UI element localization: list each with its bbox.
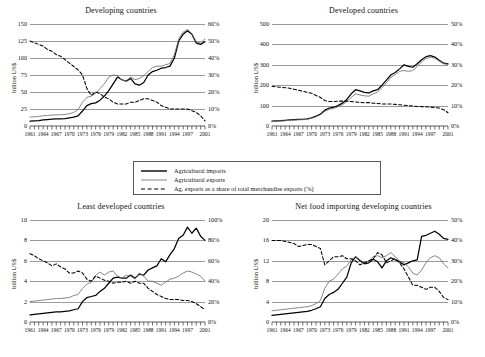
legend: Agricultural imports Agricultural export… [133, 161, 381, 195]
y-axis-label: billion US$ [252, 63, 259, 93]
panel-least-developed-countries: Least developed countries 02468100%20%40… [0, 196, 242, 357]
y-axis-tick-label: 12 [263, 257, 272, 264]
x-axis-tick-label: 1997 [180, 327, 196, 333]
y2-axis-tick-label: 100% [205, 216, 222, 223]
plot-area: 01002003004005000%10%20%30%40%50%1961196… [272, 24, 448, 126]
y2-axis-tick-label: 10% [448, 102, 462, 109]
panel-net-food-importing-countries: Net food importing developing countries … [242, 196, 485, 357]
series-canvas [272, 220, 448, 329]
series-canvas [30, 220, 205, 329]
y2-axis-tick-label: 30% [205, 71, 219, 78]
y2-axis-tick-label: 0% [205, 318, 216, 325]
legend-key-solid-thick-icon [140, 167, 168, 175]
y2-axis-tick-label: 10% [448, 298, 462, 305]
legend-item: Ag. exports as a share of total merchand… [140, 184, 374, 193]
y2-axis-tick-label: 60% [205, 257, 219, 264]
y2-axis-tick-label: 40% [205, 277, 219, 284]
y2-axis-tick-label: 0% [448, 122, 459, 129]
series-line [272, 57, 448, 121]
series-line [272, 56, 448, 121]
x-axis-tick-label: 1997 [422, 327, 438, 333]
series-line [30, 254, 205, 310]
y2-axis-tick-label: 80% [205, 236, 219, 243]
y-axis-tick-label: 125 [18, 37, 30, 44]
y2-axis-tick-label: 20% [448, 81, 462, 88]
y-axis-label: billion US$ [10, 259, 17, 289]
series-line [30, 41, 205, 121]
x-axis-tick-label: 1997 [180, 131, 196, 137]
plot-area: 02550751001251500%10%20%30%40%50%60%1961… [30, 24, 205, 126]
plot-area: 02468100%20%40%60%80%100%196119641967197… [30, 220, 205, 322]
y2-axis-tick-label: 40% [448, 40, 462, 47]
y2-axis-tick-label: 20% [205, 298, 219, 305]
series-canvas [30, 24, 205, 133]
y2-axis-tick-label: 50% [205, 37, 219, 44]
y2-axis-tick-label: 50% [448, 20, 462, 27]
x-axis-tick-label: 2001 [197, 327, 213, 333]
legend-item: Agricultural imports [140, 166, 374, 175]
x-axis-tick-label: 1997 [422, 131, 438, 137]
legend-label: Agricultural exports [174, 176, 225, 183]
legend-label: Ag. exports as a share of total merchand… [174, 185, 314, 192]
y2-axis-tick-label: 20% [448, 277, 462, 284]
y2-axis-tick-label: 0% [205, 122, 216, 129]
y-axis-tick-label: 10 [21, 216, 30, 223]
legend-label: Agricultural imports [174, 167, 226, 174]
legend-key-dashed-icon [140, 185, 168, 193]
y-axis-tick-label: 500 [260, 20, 272, 27]
y2-axis-tick-label: 30% [448, 257, 462, 264]
x-axis-tick-label: 2001 [440, 131, 456, 137]
panel-title: Net food importing developing countries [242, 202, 485, 211]
panel-title: Developed countries [242, 6, 485, 15]
y2-axis-tick-label: 20% [205, 88, 219, 95]
y-axis-tick-label: 20 [263, 216, 272, 223]
figure-root: Developing countries 02550751001251500%1… [0, 0, 485, 357]
y-axis-tick-label: 16 [263, 236, 272, 243]
y-axis-label: billion US$ [10, 63, 17, 93]
series-line [30, 227, 205, 315]
y2-axis-tick-label: 30% [448, 61, 462, 68]
legend-key-solid-thin-icon [140, 176, 168, 184]
y2-axis-tick-label: 60% [205, 20, 219, 27]
y-axis-tick-label: 150 [18, 20, 30, 27]
y2-axis-tick-label: 0% [448, 318, 459, 325]
x-axis-tick-label: 2001 [440, 327, 456, 333]
panel-title: Developing countries [0, 6, 242, 15]
y-axis-tick-label: 200 [260, 81, 272, 88]
panel-developed-countries: Developed countries 01002003004005000%10… [242, 0, 485, 160]
y2-axis-tick-label: 40% [205, 54, 219, 61]
y-axis-tick-label: 400 [260, 40, 272, 47]
panel-title: Least developed countries [0, 202, 242, 211]
y-axis-tick-label: 300 [260, 61, 272, 68]
plot-area: 0481216200%10%20%30%40%50%19611964196719… [272, 220, 448, 322]
y2-axis-tick-label: 50% [448, 216, 462, 223]
y2-axis-tick-label: 10% [205, 105, 219, 112]
series-line [272, 231, 448, 315]
y-axis-tick-label: 100 [18, 54, 30, 61]
legend-item: Agricultural exports [140, 175, 374, 184]
panel-developing-countries: Developing countries 02550751001251500%1… [0, 0, 242, 160]
y-axis-tick-label: 25 [21, 105, 30, 112]
x-axis-tick-label: 2001 [197, 131, 213, 137]
y-axis-tick-label: 100 [260, 102, 272, 109]
series-line [272, 86, 448, 113]
series-line [30, 271, 205, 302]
y-axis-tick-label: 75 [21, 71, 30, 78]
y-axis-tick-label: 50 [21, 88, 30, 95]
y2-axis-tick-label: 40% [448, 236, 462, 243]
y-axis-label: billion US$ [252, 259, 259, 289]
series-canvas [272, 24, 448, 133]
